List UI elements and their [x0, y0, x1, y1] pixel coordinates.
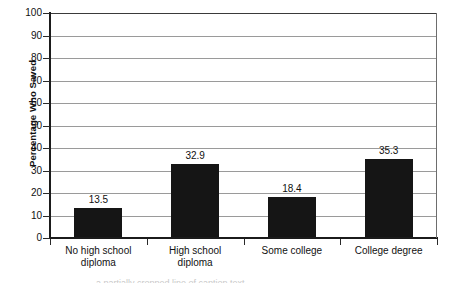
- y-axis-tick-label: 0: [16, 233, 42, 243]
- y-axis-tick-label: 80: [16, 53, 42, 63]
- x-axis-category-label: High school diploma: [147, 245, 244, 268]
- y-axis-tick-mark: [43, 238, 50, 239]
- gridline: [50, 103, 437, 104]
- y-axis-tick-mark: [43, 13, 50, 14]
- bar-value-label: 35.3: [359, 146, 419, 156]
- bar: [268, 197, 316, 238]
- x-axis-tick-mark: [437, 239, 438, 245]
- x-axis-category-label: College degree: [340, 245, 437, 257]
- plot-frame-right-border: [436, 13, 437, 238]
- gridline: [50, 81, 437, 82]
- bar: [365, 159, 413, 238]
- y-axis-tick-label: 60: [16, 98, 42, 108]
- cropped-caption-remnant: a partially cropped line of caption text: [96, 278, 426, 283]
- y-axis-tick-mark: [43, 58, 50, 59]
- bar-value-label: 18.4: [262, 184, 322, 194]
- y-axis-tick-mark: [43, 171, 50, 172]
- y-axis-tick-label: 50: [16, 121, 42, 131]
- y-axis-tick-label: 20: [16, 188, 42, 198]
- y-axis-tick-label: 40: [16, 143, 42, 153]
- y-axis-tick-mark: [43, 193, 50, 194]
- y-axis-tick-mark: [43, 81, 50, 82]
- y-axis-tick-mark: [43, 36, 50, 37]
- bar-value-label: 32.9: [165, 151, 225, 161]
- y-axis-tick-label: 100: [16, 8, 42, 18]
- y-axis-tick-mark: [43, 148, 50, 149]
- bar-value-label: 13.5: [68, 195, 128, 205]
- bar: [171, 164, 219, 238]
- y-axis-tick-mark: [43, 216, 50, 217]
- bar-chart-figure: Percentage Who Saved 1009080706050403020…: [0, 0, 455, 286]
- y-axis-tick-labels: 1009080706050403020100: [8, 0, 42, 286]
- gridline: [50, 126, 437, 127]
- x-axis-category-label: Some college: [244, 245, 341, 257]
- gridline: [50, 58, 437, 59]
- plot-area: 13.532.918.435.3: [50, 13, 437, 238]
- gridline: [50, 13, 437, 14]
- y-axis-tick-label: 90: [16, 31, 42, 41]
- y-axis-tick-label: 70: [16, 76, 42, 86]
- x-axis-category-label: No high school diploma: [50, 245, 147, 268]
- y-axis-tick-label: 30: [16, 166, 42, 176]
- y-axis-tick-mark: [43, 126, 50, 127]
- bar: [74, 208, 122, 238]
- gridline: [50, 36, 437, 37]
- y-axis-tick-label: 10: [16, 211, 42, 221]
- y-axis-tick-mark: [43, 103, 50, 104]
